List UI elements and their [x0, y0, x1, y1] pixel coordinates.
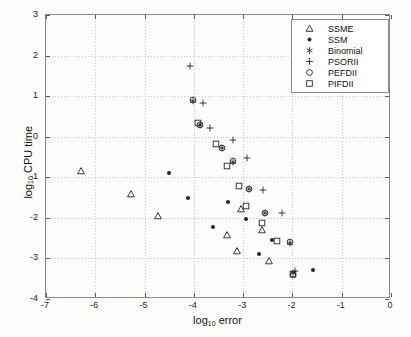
data-point [241, 214, 250, 223]
data-point [264, 257, 273, 266]
legend-label: SSM [322, 35, 348, 45]
data-point [224, 198, 233, 207]
data-point [208, 222, 217, 231]
data-point [185, 61, 194, 70]
legend-label: PIFDII [322, 79, 354, 89]
legend-marker-square-icon [296, 78, 322, 89]
legend-item-pifdii[interactable]: PIFDII [292, 78, 388, 89]
y-tick-label: 0 [0, 131, 38, 141]
data-point [212, 140, 221, 149]
y-tick-label: 3 [0, 9, 38, 19]
y-tick-label: -4 [0, 293, 38, 303]
data-point [243, 153, 252, 162]
legend-item-pefdii[interactable]: PEFDII [292, 67, 388, 78]
legend-item-ssm[interactable]: SSM [292, 34, 388, 45]
data-point [165, 169, 174, 178]
data-point [272, 237, 281, 246]
x-tick-label: -7 [41, 300, 49, 310]
legend-marker-plus-icon [296, 56, 322, 67]
legend-marker-triangle-icon [296, 23, 322, 34]
y-tick-label: -3 [0, 252, 38, 262]
legend-label: Binomial [322, 46, 363, 56]
data-point [223, 230, 232, 239]
y-tick-label: -2 [0, 212, 38, 222]
x-tick-label: -4 [189, 300, 197, 310]
data-point [261, 208, 270, 217]
data-point [285, 238, 294, 247]
data-point [309, 265, 318, 274]
data-point [258, 186, 267, 195]
x-axis-label: log10 error [45, 314, 390, 327]
data-point [193, 118, 202, 127]
data-point [233, 247, 242, 256]
data-point [154, 211, 163, 220]
legend-label: PEFDII [322, 68, 357, 78]
y-tick-label: 2 [0, 50, 38, 60]
x-tick-label: -3 [238, 300, 246, 310]
legend-item-ssme[interactable]: SSME [292, 23, 388, 34]
data-point [188, 96, 197, 105]
data-point [254, 250, 263, 259]
data-point [241, 201, 250, 210]
data-point [257, 218, 266, 227]
x-tick-top [391, 15, 392, 19]
data-point [235, 182, 244, 191]
data-point [205, 123, 214, 132]
y-tick-label: -1 [0, 171, 38, 181]
legend: SSMESSMBinomialPSORIIPEFDIIPIFDII [291, 19, 389, 93]
x-tick-label: -5 [140, 300, 148, 310]
data-point [183, 194, 192, 203]
legend-label: SSME [322, 24, 354, 34]
data-point [245, 184, 254, 193]
legend-marker-dot-icon [296, 34, 322, 45]
legend-item-psorii[interactable]: PSORII [292, 56, 388, 67]
data-point [223, 161, 232, 170]
x-axis-label-base: log [193, 314, 208, 326]
x-axis-label-rest: error [216, 314, 242, 326]
x-tick-label: 0 [387, 300, 392, 310]
data-point [77, 167, 86, 176]
data-point [277, 208, 286, 217]
x-tick [391, 293, 392, 297]
legend-item-binomial[interactable]: Binomial [292, 45, 388, 56]
legend-marker-circle-icon [296, 67, 322, 78]
data-point [198, 99, 207, 108]
data-point [289, 269, 298, 278]
x-tick-label: -2 [287, 300, 295, 310]
legend-label: PSORII [322, 57, 359, 67]
y-axis-label-base: log [22, 184, 34, 199]
data-point [229, 135, 238, 144]
data-point [126, 189, 135, 198]
x-tick-label: -1 [337, 300, 345, 310]
legend-marker-star-icon [296, 45, 322, 56]
x-axis-label-subscript: 10 [208, 320, 216, 327]
x-tick-label: -6 [90, 300, 98, 310]
y-tick-label: 1 [0, 90, 38, 100]
scatter-plot-figure: log10 CPU time log10 error -7-6-5-4-3-2-… [0, 0, 411, 337]
